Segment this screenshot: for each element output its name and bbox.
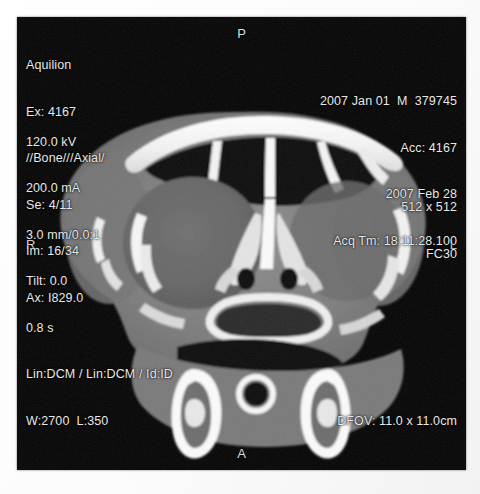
orientation-marker-anterior: A <box>237 447 246 460</box>
window-level: W:2700 L:350 <box>26 414 173 430</box>
slice-thickness: 3.0 mm/0.0:1 <box>26 228 173 244</box>
reconstruction-kernel: FC30 <box>401 247 457 263</box>
technique-overlay: 120.0 kV 200.0 mA 3.0 mm/0.0:1 Tilt: 0.0… <box>26 104 173 461</box>
dicom-image-frame[interactable]: P A R L Aquilion Ex: 4167 //Bone///Axial… <box>17 17 466 470</box>
dicom-viewer: P A R L Aquilion Ex: 4167 //Bone///Axial… <box>0 0 480 494</box>
display-field-of-view: DFOV: 11.0 x 11.0cm <box>337 414 457 430</box>
dfov-overlay: DFOV: 11.0 x 11.0cm <box>337 383 457 461</box>
lut-info: Lin:DCM / Lin:DCM / Id:ID <box>26 367 173 383</box>
exposure-time: 0.8 s <box>26 321 173 337</box>
orientation-marker-posterior: P <box>237 27 246 40</box>
scanner-name: Aquilion <box>26 58 105 74</box>
detector-info-overlay: 512 x 512 FC30 <box>401 169 457 293</box>
tube-current: 200.0 mA <box>26 181 173 197</box>
patient-date-sex-id: 2007 Jan 01 M 379745 <box>320 94 457 110</box>
tube-voltage: 120.0 kV <box>26 135 173 151</box>
accession-number: Acc: 4167 <box>320 141 457 157</box>
gantry-tilt: Tilt: 0.0 <box>26 274 173 290</box>
image-matrix: 512 x 512 <box>401 200 457 216</box>
